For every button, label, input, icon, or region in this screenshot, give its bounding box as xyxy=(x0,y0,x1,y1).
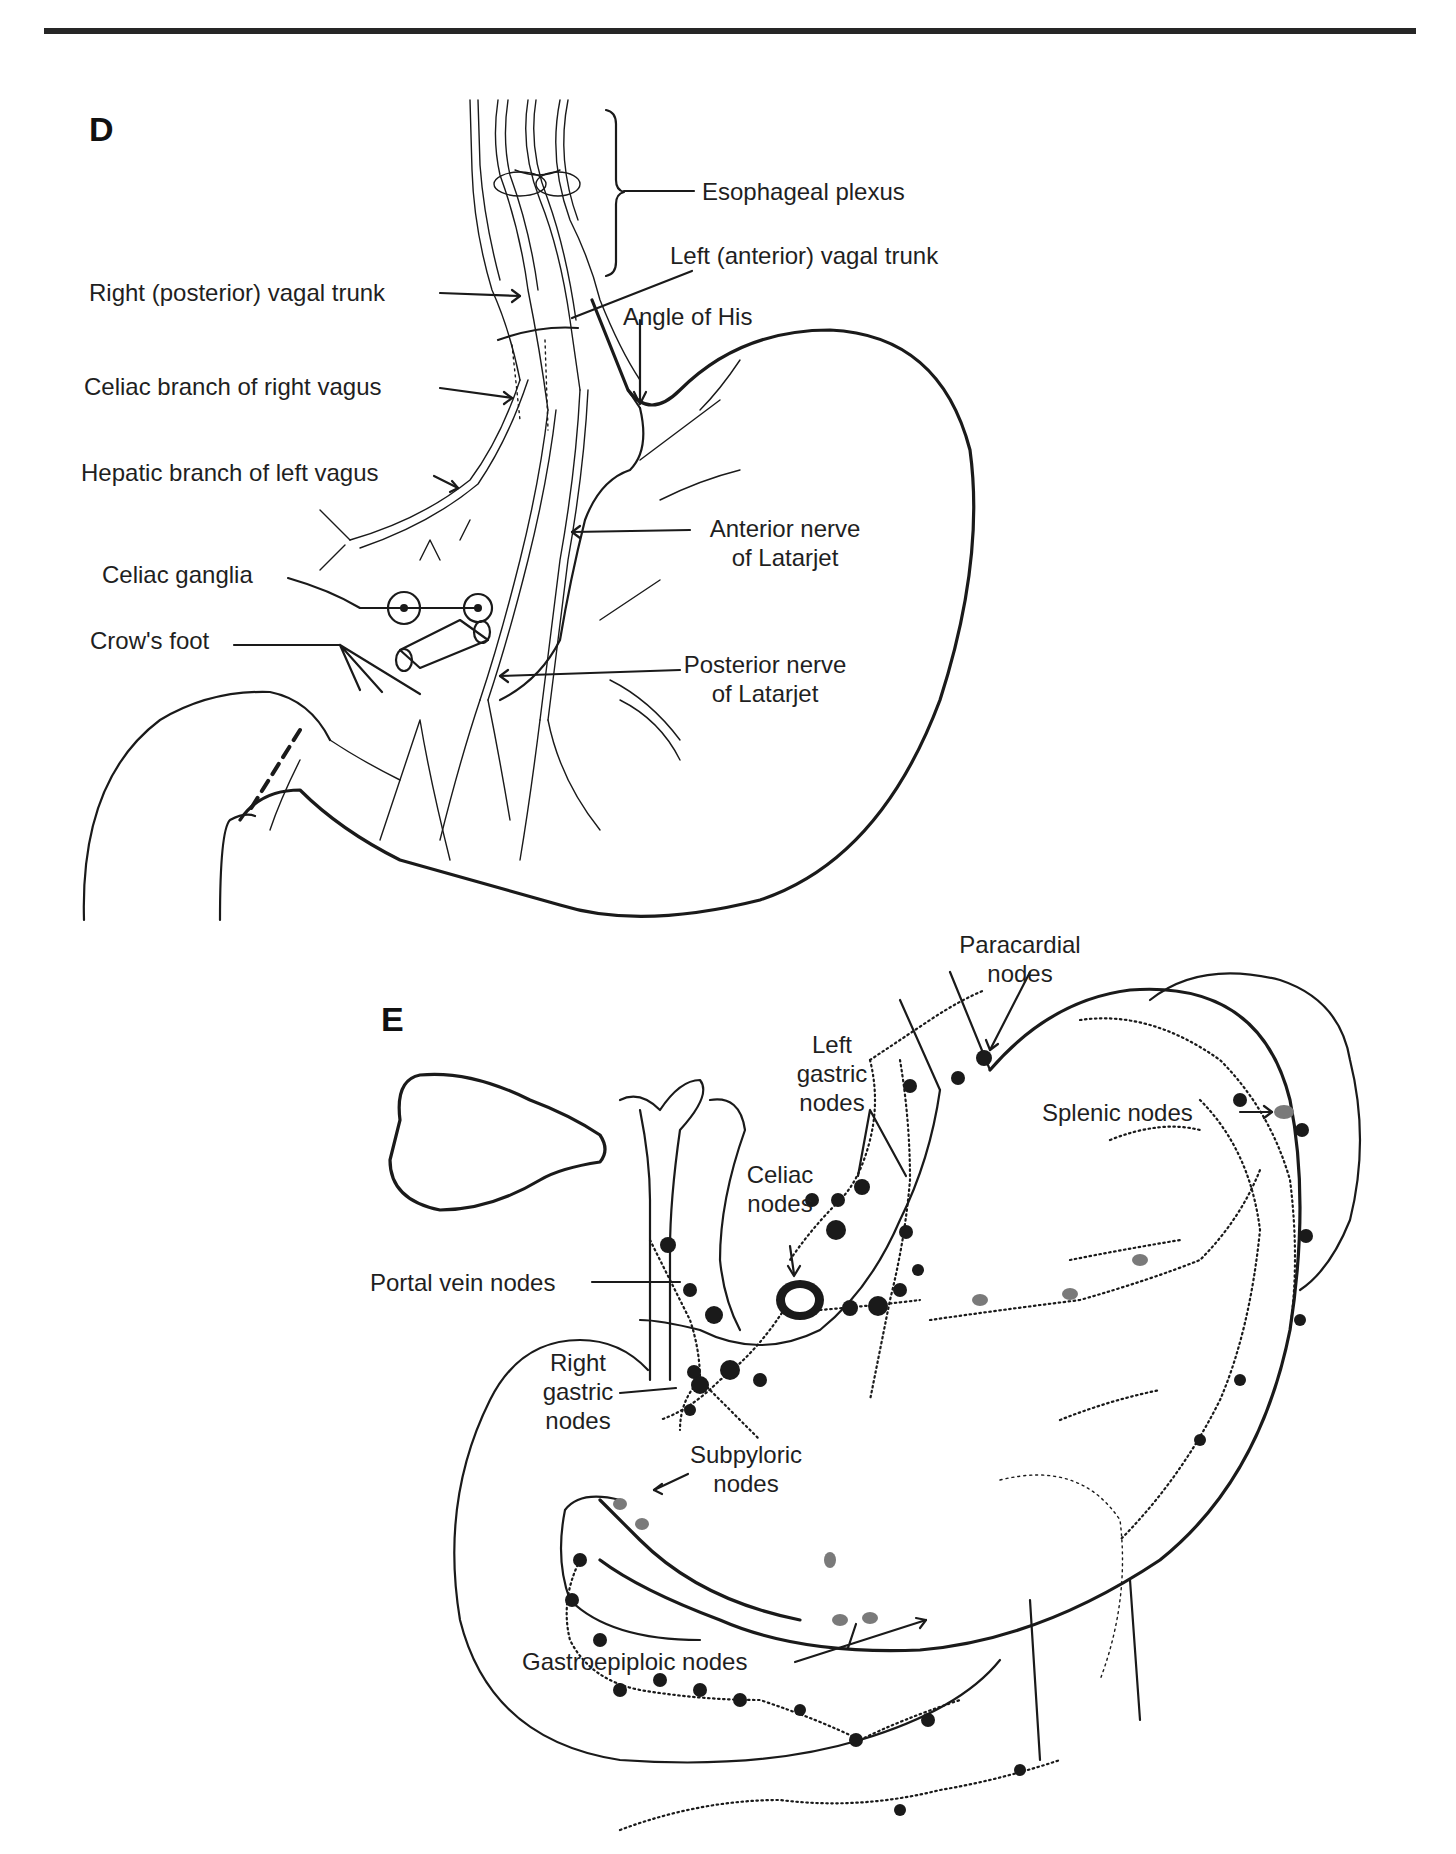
label-left-vagal-trunk: Left (anterior) vagal trunk xyxy=(670,241,938,270)
label-celiac-nodes-line1: Celiac xyxy=(725,1160,835,1189)
crows-foot-leader xyxy=(234,645,420,694)
label-left-gastric-line1: Left xyxy=(772,1030,892,1059)
stomach-outline-e xyxy=(600,989,1300,1650)
label-left-gastric-line3: nodes xyxy=(772,1088,892,1117)
label-celiac-nodes-line2: nodes xyxy=(725,1189,835,1218)
label-anterior-latarjet: Anterior nerve of Latarjet xyxy=(700,514,870,572)
label-posterior-latarjet-line2: of Latarjet xyxy=(672,679,858,708)
label-subpyloric-line1: Subpyloric xyxy=(676,1440,816,1469)
label-paracardial-nodes: Paracardial nodes xyxy=(950,930,1090,988)
anterior-latarjet-leader xyxy=(572,530,690,532)
posterior-latarjet-leader xyxy=(500,670,680,676)
panel-d-drawing xyxy=(84,100,974,920)
label-paracardial-line1: Paracardial xyxy=(950,930,1090,959)
label-right-gastric-line3: nodes xyxy=(528,1406,628,1435)
label-celiac-branch: Celiac branch of right vagus xyxy=(84,372,382,401)
label-subpyloric-line2: nodes xyxy=(676,1469,816,1498)
label-left-gastric-nodes: Left gastric nodes xyxy=(772,1030,892,1117)
gastroepiploic-leader xyxy=(795,1620,926,1662)
plexus-bracket xyxy=(606,110,624,276)
label-hepatic-branch: Hepatic branch of left vagus xyxy=(81,458,379,487)
label-anterior-latarjet-line1: Anterior nerve xyxy=(700,514,870,543)
label-subpyloric-nodes: Subpyloric nodes xyxy=(676,1440,816,1498)
label-anterior-latarjet-line2: of Latarjet xyxy=(700,543,870,572)
label-right-vagal-trunk: Right (posterior) vagal trunk xyxy=(89,278,385,307)
label-posterior-latarjet: Posterior nerve of Latarjet xyxy=(672,650,858,708)
left-gastric-leader xyxy=(858,1110,906,1176)
gallbladder xyxy=(390,1074,605,1210)
label-paracardial-line2: nodes xyxy=(950,959,1090,988)
label-right-gastric-line1: Right xyxy=(528,1348,628,1377)
right-trunk-leader xyxy=(440,293,520,296)
label-gastroepiploic-nodes: Gastroepiploic nodes xyxy=(522,1647,747,1676)
celiac-ganglia-leader xyxy=(288,578,478,608)
label-right-gastric-nodes: Right gastric nodes xyxy=(528,1348,628,1435)
label-posterior-latarjet-line1: Posterior nerve xyxy=(672,650,858,679)
panel-letter-d: D xyxy=(89,110,114,149)
label-angle-of-his: Angle of His xyxy=(623,302,752,331)
label-esophageal-plexus: Esophageal plexus xyxy=(702,177,905,206)
label-left-gastric-line2: gastric xyxy=(772,1059,892,1088)
celiac-branch-leader xyxy=(440,388,512,398)
label-crows-foot: Crow's foot xyxy=(90,626,209,655)
label-celiac-ganglia: Celiac ganglia xyxy=(102,560,253,589)
label-splenic-nodes: Splenic nodes xyxy=(1042,1098,1193,1127)
label-portal-vein-nodes: Portal vein nodes xyxy=(370,1268,555,1297)
label-celiac-nodes: Celiac nodes xyxy=(725,1160,835,1218)
hepatic-branch-leader xyxy=(434,476,458,488)
right-gastric-leader xyxy=(620,1388,676,1393)
label-right-gastric-line2: gastric xyxy=(528,1377,628,1406)
panel-letter-e: E xyxy=(381,1000,404,1039)
